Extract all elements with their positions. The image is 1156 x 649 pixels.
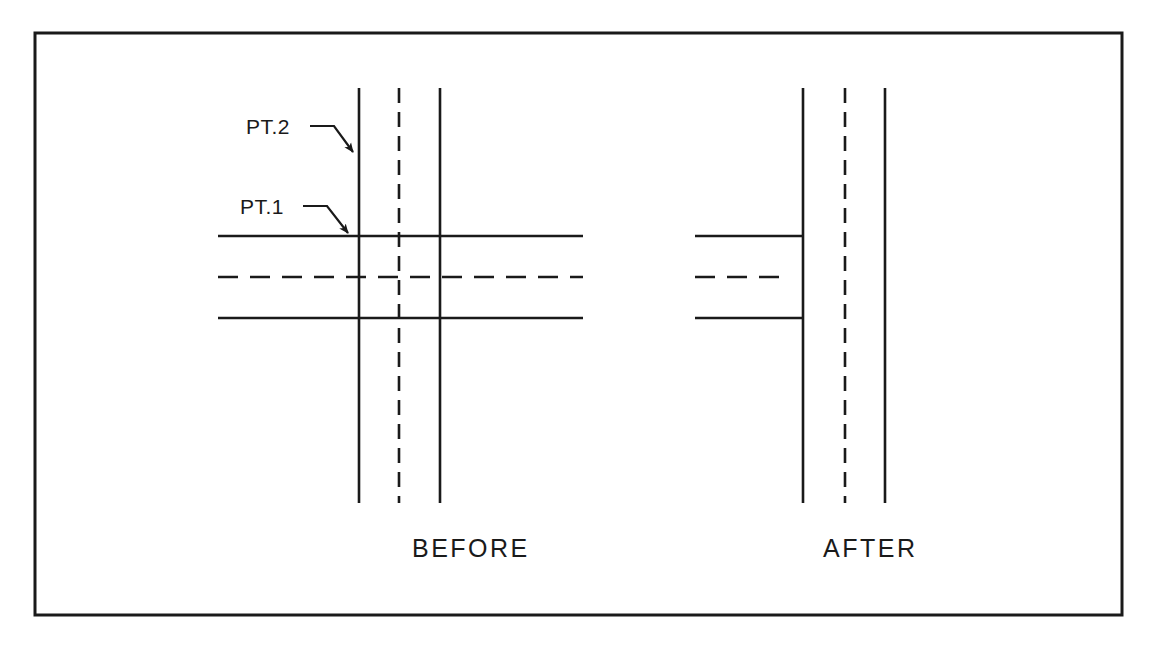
pt1-leader-line bbox=[303, 206, 348, 233]
pt2-leader-line bbox=[310, 126, 353, 152]
leader-lines bbox=[303, 126, 353, 233]
outer-frame bbox=[35, 33, 1122, 615]
panel-after bbox=[695, 88, 885, 503]
panel-before bbox=[218, 88, 583, 503]
diagram-canvas: PT.2 PT.1 BEFORE AFTER bbox=[0, 0, 1156, 649]
after-caption: AFTER bbox=[823, 534, 917, 562]
before-caption: BEFORE bbox=[412, 534, 530, 562]
pt1-label: PT.1 bbox=[240, 195, 284, 218]
pt2-label: PT.2 bbox=[246, 115, 290, 138]
before-after-drawing: PT.2 PT.1 BEFORE AFTER bbox=[0, 0, 1156, 649]
